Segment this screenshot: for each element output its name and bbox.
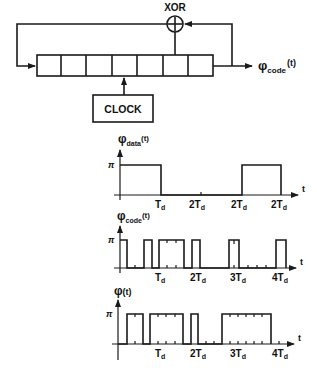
svg-text:Td: Td <box>155 272 165 284</box>
signal-trace <box>120 165 281 195</box>
xor-gate: XOR <box>164 2 186 32</box>
x-tick-labels: Td 2Td 3Td 4Td <box>155 348 288 360</box>
y-axis-label: φdata(t) <box>118 132 149 147</box>
y-tick-pi: π <box>108 160 115 170</box>
svg-text:2Td: 2Td <box>189 199 205 211</box>
svg-text:2Td: 2Td <box>190 348 206 360</box>
svg-text:2Td: 2Td <box>271 199 287 211</box>
plot-phi: φ(t) π t Td 2Td 3Td 4Td <box>106 284 301 360</box>
svg-text:Td: Td <box>155 348 165 360</box>
svg-text:2Td: 2Td <box>231 199 247 211</box>
plot-phi-code: φcode(t) π t Td 2Td 3Td 4Td <box>108 209 303 284</box>
x-axis-label: t <box>298 333 301 343</box>
feedback-line-left <box>17 24 167 66</box>
svg-text:4Td: 4Td <box>272 272 288 284</box>
svg-text:2Td: 2Td <box>190 272 206 284</box>
x-tick-labels: Td 2Td 2Td 2Td <box>155 199 287 211</box>
output-label: φcode(t) <box>258 58 296 75</box>
y-axis-label: φ(t) <box>114 284 132 298</box>
svg-text:Td: Td <box>155 199 165 211</box>
x-tick-labels: Td 2Td 3Td 4Td <box>155 272 288 284</box>
clock-label: CLOCK <box>104 103 142 115</box>
figure: XOR φcode(t) CLOCK φdata(t) π t <box>0 0 317 370</box>
feedback-line-right <box>185 24 232 66</box>
chip-ticks <box>135 314 279 344</box>
svg-text:3Td: 3Td <box>230 348 246 360</box>
y-tick-pi: π <box>108 235 115 245</box>
lfsr-block-diagram: XOR φcode(t) CLOCK <box>17 2 296 122</box>
signal-trace <box>118 314 271 344</box>
xor-label: XOR <box>164 2 186 13</box>
signal-trace <box>120 240 286 268</box>
x-axis-label: t <box>302 184 305 194</box>
y-axis-label: φcode(t) <box>117 209 150 224</box>
svg-text:3Td: 3Td <box>230 272 246 284</box>
shift-register <box>37 55 213 76</box>
x-axis-label: t <box>300 257 303 267</box>
svg-text:4Td: 4Td <box>272 348 288 360</box>
y-tick-pi: π <box>106 309 113 319</box>
plot-phi-data: φdata(t) π t Td 2Td 2Td 2Td <box>108 132 305 211</box>
